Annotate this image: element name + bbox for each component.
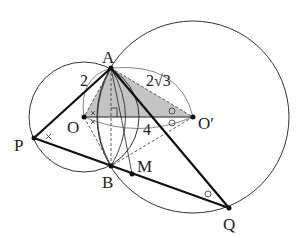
cross-mark-P bbox=[46, 134, 51, 139]
label-A: A bbox=[102, 48, 115, 67]
label-P: P bbox=[14, 136, 23, 155]
point-B bbox=[109, 164, 114, 169]
label-B: B bbox=[102, 173, 113, 192]
point-O-prime bbox=[191, 115, 196, 120]
measure-label-AO-prime: 2√3 bbox=[146, 72, 171, 89]
measure-label-OO-prime: 4 bbox=[143, 121, 151, 138]
circle-mark-Q bbox=[205, 191, 211, 197]
geometry-diagram: A O O′ P B M Q 2 2√3 4 bbox=[0, 0, 302, 238]
label-M: M bbox=[137, 157, 152, 176]
label-O-prime: O′ bbox=[198, 114, 214, 133]
circle-mark-O-prime-lower bbox=[169, 120, 175, 126]
point-Q bbox=[227, 206, 232, 211]
measure-label-OA: 2 bbox=[80, 72, 88, 89]
label-O: O bbox=[67, 118, 79, 137]
point-P bbox=[32, 136, 37, 141]
point-O bbox=[82, 115, 87, 120]
label-Q: Q bbox=[223, 215, 235, 234]
point-M bbox=[130, 172, 135, 177]
